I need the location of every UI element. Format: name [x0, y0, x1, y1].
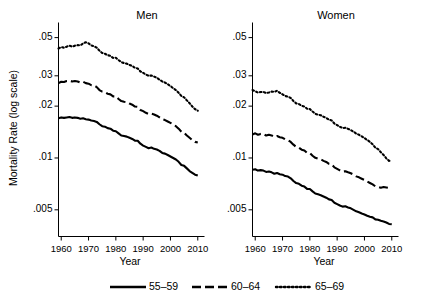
legend-swatches [0, 278, 431, 304]
y-tick-label: .03 [213, 69, 247, 80]
y-tick-label: .02 [19, 99, 53, 110]
y-tick-label: .01 [213, 151, 247, 162]
series-line-55-59 [253, 169, 392, 224]
legend-label-55-59: 55–59 [149, 280, 178, 292]
x-tick-label: 2010 [376, 243, 408, 254]
y-tick-label: .03 [19, 69, 53, 80]
y-tick-label: .005 [213, 203, 247, 214]
y-tick-label: .05 [19, 31, 53, 42]
x-tick-label: 2010 [182, 243, 214, 254]
legend-label-65-69: 65–69 [315, 280, 344, 292]
series-line-65-69 [59, 42, 198, 111]
mortality-rate-figure: Mortality Rate (log scale) Men Women Yea… [0, 0, 431, 304]
series-line-60-64 [253, 133, 392, 188]
y-tick-label: .05 [213, 31, 247, 42]
y-tick-label: .01 [19, 151, 53, 162]
legend-label-60-64: 60–64 [231, 280, 260, 292]
series-line-65-69 [253, 90, 392, 161]
y-tick-label: .005 [19, 203, 53, 214]
y-tick-label: .02 [213, 99, 247, 110]
